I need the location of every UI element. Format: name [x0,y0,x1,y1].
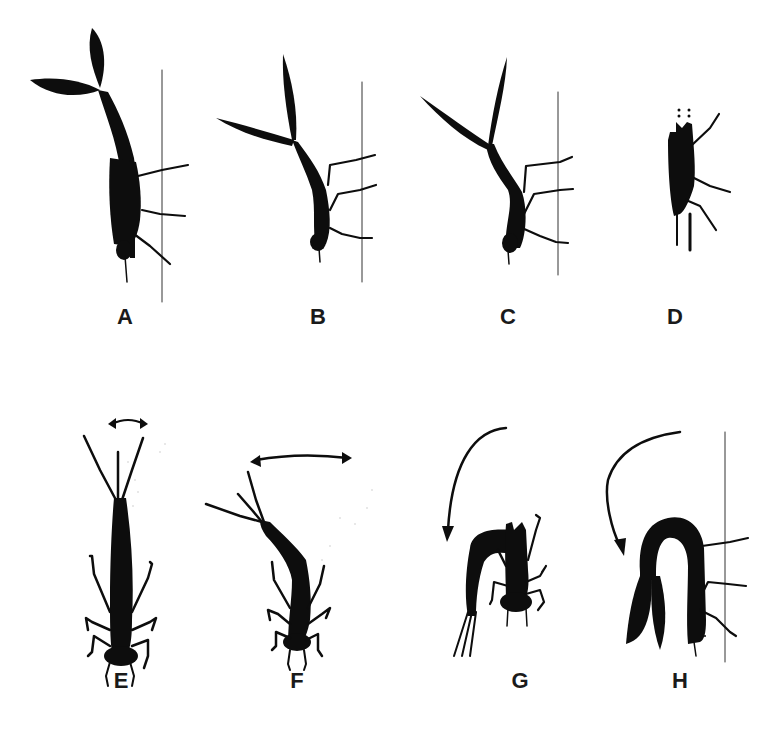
larva-b-silhouette [216,54,376,282]
panel-label-b: B [310,306,326,328]
curved-motion-arrow-g [448,428,506,530]
panel-label-h: H [672,670,688,692]
panel-label-g: G [511,670,528,692]
panel-label-c: C [500,306,516,328]
larva-g-silhouette [442,428,546,656]
lateral-motion-arrow-f [256,455,348,460]
larva-c-silhouette [420,57,573,275]
larva-f-silhouette [206,452,373,670]
figure-artwork [0,0,771,731]
larva-a-silhouette [30,28,188,302]
panel-label-a: A [117,306,133,328]
larva-e-silhouette [84,418,166,686]
lateral-motion-arrow-e [112,420,144,424]
larvae-posture-figure: A B C D E F G H [0,0,771,731]
larva-d-silhouette [668,109,730,251]
panel-label-d: D [667,306,683,328]
panel-label-e: E [114,670,129,692]
larva-h-silhouette [607,432,748,662]
panel-label-f: F [290,670,303,692]
